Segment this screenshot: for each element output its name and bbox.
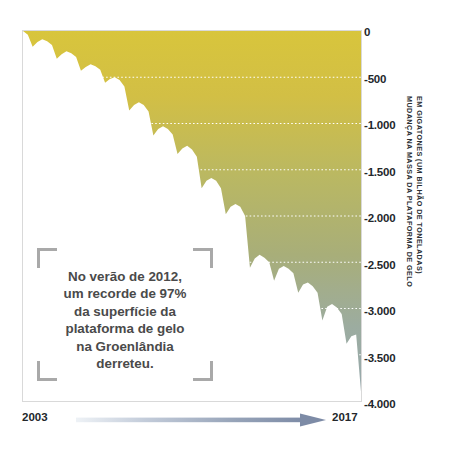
- y-axis-title: MUDANÇA NA MASSA DA PLATAFORMA DE GELO E…: [404, 96, 426, 346]
- y-tick-3500: -3.500: [364, 352, 395, 364]
- bracket-top-left-icon: [37, 248, 57, 268]
- x-axis-start-year: 2003: [22, 411, 48, 423]
- ice-mass-loss-figure: 0 -500 -1.000 -1.500 -2.000 -2.500 -3.00…: [0, 0, 453, 449]
- x-axis-end-year: 2017: [332, 411, 358, 423]
- y-tick-2000: -2.000: [364, 212, 395, 224]
- y-tick-2500: -2.500: [364, 259, 395, 271]
- y-tick-1000: -1.000: [364, 119, 395, 131]
- y-tick-1500: -1.500: [364, 166, 395, 178]
- y-tick-0: 0: [364, 26, 370, 38]
- y-axis-title-line-2: EM GIGATONES (UM BILHÃO DE TONELADAS): [415, 96, 424, 274]
- x-axis: 2003 2017: [0, 404, 453, 436]
- caption-callout: No verão de 2012,um recorde de 97%da sup…: [37, 248, 213, 381]
- y-axis-title-line-1: MUDANÇA NA MASSA DA PLATAFORMA DE GELO: [405, 96, 414, 287]
- y-tick-500: -500: [364, 73, 386, 85]
- right-arrow-icon: [76, 412, 326, 428]
- caption-text: No verão de 2012,um recorde de 97%da sup…: [37, 268, 213, 372]
- bracket-top-right-icon: [193, 248, 213, 268]
- y-tick-3000: -3.000: [364, 305, 395, 317]
